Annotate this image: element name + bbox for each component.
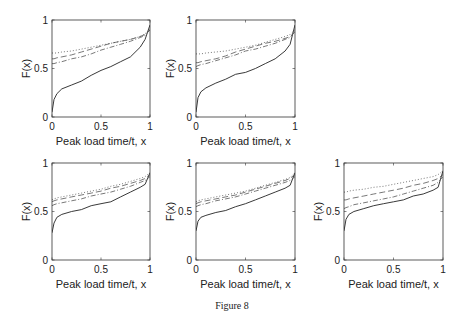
series-dashed <box>52 30 150 59</box>
x-tick-label: 1 <box>147 121 153 132</box>
series-dotted <box>52 173 150 200</box>
figure-canvas: 000.50.511Peak load time/t, xF(x)000.50.… <box>0 0 464 316</box>
series-solid <box>196 25 295 112</box>
x-tick-label: 1 <box>292 121 298 132</box>
axes-box <box>52 20 150 117</box>
series-dotted <box>196 30 295 54</box>
y-tick-label: 0.5 <box>34 206 48 217</box>
subplot-bottom-left: 000.50.511Peak load time/t, xF(x) <box>20 158 153 291</box>
series-group <box>52 25 150 112</box>
series-group <box>196 25 295 112</box>
x-tick-label: 0 <box>193 264 199 275</box>
axes-box <box>196 163 295 260</box>
axes-box <box>344 163 443 260</box>
series-dashed <box>196 32 295 63</box>
x-tick-label: 0 <box>341 264 347 275</box>
x-axis-label: Peak load time/t, x <box>56 278 147 290</box>
axes-box <box>196 20 295 117</box>
y-tick-label: 1 <box>186 158 192 169</box>
y-tick-label: 1 <box>186 15 192 26</box>
series-group <box>52 173 150 233</box>
series-dash-dot <box>52 30 150 64</box>
x-tick-label: 0.5 <box>94 121 108 132</box>
x-axis-label: Peak load time/t, x <box>56 135 147 147</box>
subplot-top-left: 000.50.511Peak load time/t, xF(x) <box>20 15 153 148</box>
series-dash-dot <box>196 177 295 207</box>
y-tick-label: 0.5 <box>178 63 192 74</box>
y-tick-label: 0 <box>186 255 192 266</box>
x-tick-label: 1 <box>147 264 153 275</box>
y-tick-label: 1 <box>42 15 48 26</box>
x-tick-label: 0 <box>49 264 55 275</box>
y-tick-label: 1 <box>334 158 340 169</box>
x-tick-label: 0 <box>49 121 55 132</box>
x-tick-label: 0.5 <box>239 121 253 132</box>
y-tick-label: 1 <box>42 158 48 169</box>
series-group <box>344 171 443 231</box>
series-solid <box>344 171 443 231</box>
series-dashed <box>196 175 295 204</box>
y-axis-label: F(x) <box>312 202 324 222</box>
y-tick-label: 0 <box>186 112 192 123</box>
y-axis-label: F(x) <box>20 202 32 222</box>
y-axis-label: F(x) <box>20 59 32 79</box>
figure-caption: Figure 8 <box>0 300 464 311</box>
x-tick-label: 1 <box>440 264 446 275</box>
x-axis-label: Peak load time/t, x <box>200 135 291 147</box>
y-axis-label: F(x) <box>164 202 176 222</box>
subplot-top-middle: 000.50.511Peak load time/t, xF(x) <box>164 15 298 148</box>
subplot-bottom-right: 000.50.511Peak load time/t, xF(x) <box>312 158 446 291</box>
y-tick-label: 0.5 <box>326 206 340 217</box>
x-tick-label: 0 <box>193 121 199 132</box>
series-dashed <box>344 175 443 200</box>
series-dotted <box>344 171 443 192</box>
x-tick-label: 0.5 <box>94 264 108 275</box>
y-axis-label: F(x) <box>164 59 176 79</box>
series-dash-dot <box>344 177 443 209</box>
y-tick-label: 0 <box>42 255 48 266</box>
x-axis-label: Peak load time/t, x <box>348 278 439 290</box>
series-solid <box>196 173 295 231</box>
x-tick-label: 1 <box>292 264 298 275</box>
y-tick-label: 0.5 <box>34 63 48 74</box>
x-tick-label: 0.5 <box>239 264 253 275</box>
y-tick-label: 0 <box>334 255 340 266</box>
subplot-bottom-middle: 000.50.511Peak load time/t, xF(x) <box>164 158 298 291</box>
y-tick-label: 0.5 <box>178 206 192 217</box>
x-axis-label: Peak load time/t, x <box>200 278 291 290</box>
series-group <box>196 173 295 231</box>
series-dotted <box>196 173 295 202</box>
x-tick-label: 0.5 <box>387 264 401 275</box>
y-tick-label: 0 <box>42 112 48 123</box>
series-dotted <box>52 30 150 53</box>
series-dash-dot <box>196 32 295 67</box>
axes-box <box>52 163 150 260</box>
series-dashed <box>52 175 150 202</box>
